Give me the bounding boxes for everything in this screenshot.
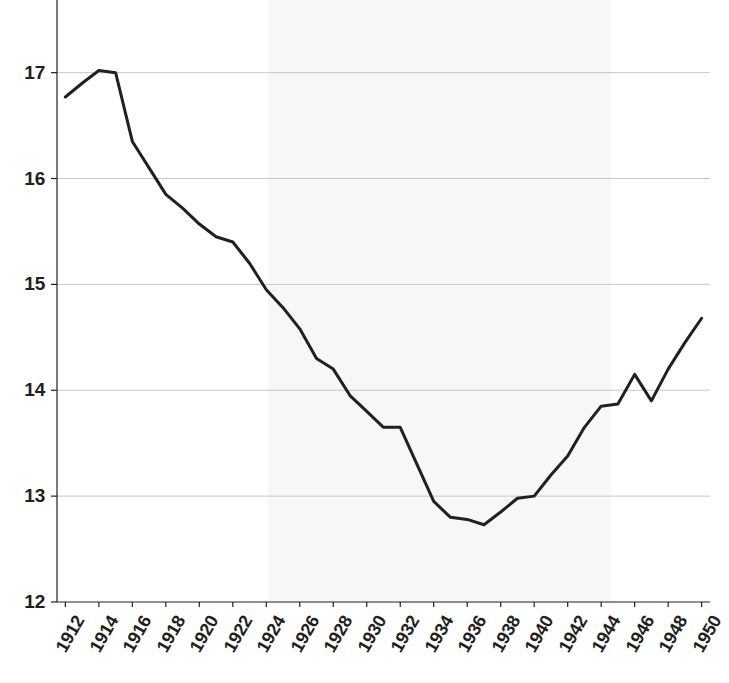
- y-tick-label-12: 12: [1, 591, 45, 613]
- y-tick-mark-group: [51, 73, 57, 602]
- line-chart: 121314151617 191219141916191819201922192…: [0, 0, 729, 683]
- highlight-band: [268, 0, 611, 602]
- y-tick-label-17: 17: [1, 62, 45, 84]
- y-tick-label-16: 16: [1, 168, 45, 190]
- y-tick-label-15: 15: [1, 273, 45, 295]
- x-tick-mark-group: [65, 602, 701, 607]
- y-tick-label-14: 14: [1, 379, 45, 401]
- shaded-band-group: [268, 0, 611, 602]
- chart-canvas: [0, 0, 729, 683]
- y-tick-label-13: 13: [1, 485, 45, 507]
